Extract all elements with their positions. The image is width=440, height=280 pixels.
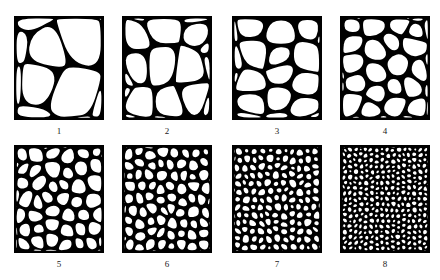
grain-panel-label-3: 3 <box>232 126 322 136</box>
grain-panel-label-4: 4 <box>340 126 430 136</box>
grain-panel-frame-6 <box>122 145 212 253</box>
grain-panel-1: 1 <box>14 16 104 120</box>
grain-structure-2 <box>124 18 210 118</box>
grain-structure-4 <box>342 18 428 118</box>
grain-panel-label-5: 5 <box>14 259 104 269</box>
grain-panel-frame-5 <box>14 145 104 253</box>
grain-panel-frame-4 <box>340 16 430 120</box>
grain-size-comparison-figure: 12345678 <box>0 0 440 280</box>
grain-panel-4: 4 <box>340 16 430 120</box>
grain-panel-frame-7 <box>232 145 322 253</box>
grain-panel-6: 6 <box>122 145 212 253</box>
grain-panel-8: 8 <box>340 145 430 253</box>
grain-panel-frame-8 <box>340 145 430 253</box>
grain-panel-3: 3 <box>232 16 322 120</box>
grain-panel-7: 7 <box>232 145 322 253</box>
grain-panel-frame-1 <box>14 16 104 120</box>
grain-panel-frame-3 <box>232 16 322 120</box>
grain-panel-2: 2 <box>122 16 212 120</box>
grain-structure-5 <box>16 147 102 251</box>
grain-structure-8 <box>342 147 428 251</box>
grain-panel-frame-2 <box>122 16 212 120</box>
grain-panel-label-2: 2 <box>122 126 212 136</box>
grain-structure-6 <box>124 147 210 251</box>
grain-panel-label-8: 8 <box>340 259 430 269</box>
grain-panel-label-6: 6 <box>122 259 212 269</box>
grain-panel-label-7: 7 <box>232 259 322 269</box>
grain-structure-7 <box>234 147 320 251</box>
grain-structure-1 <box>16 18 102 118</box>
grain-panel-5: 5 <box>14 145 104 253</box>
grain-panel-label-1: 1 <box>14 126 104 136</box>
grain-structure-3 <box>234 18 320 118</box>
